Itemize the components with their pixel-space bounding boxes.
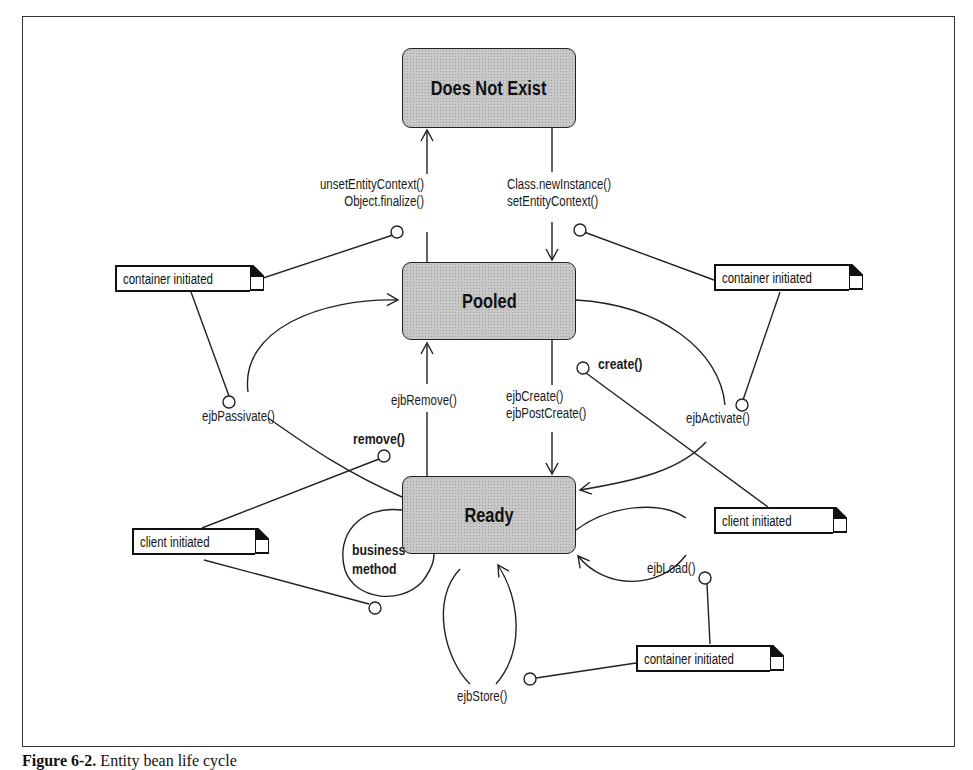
note-text: container initiated bbox=[722, 270, 812, 286]
note-corner-icon bbox=[770, 645, 784, 672]
ejbremove-label: ejbRemove() bbox=[391, 392, 457, 409]
create-trigger-label: create() bbox=[598, 355, 642, 372]
note-container-initiated-bottom: container initiated bbox=[636, 645, 770, 672]
ejbload-port bbox=[699, 572, 711, 584]
business-method-port bbox=[369, 602, 381, 614]
passivate-port bbox=[223, 396, 235, 408]
figure-caption: Figure 6-2. Entity bean life cycle bbox=[22, 752, 237, 770]
ejbstore-label: ejbStore() bbox=[457, 688, 507, 705]
label-line: ejbStore() bbox=[457, 688, 507, 705]
label-line: ejbRemove() bbox=[391, 392, 457, 409]
caption-number: Figure 6-2. bbox=[22, 752, 96, 769]
ejbcreate-label: ejbCreate() ejbPostCreate() bbox=[506, 388, 586, 422]
note-container-initiated-top-right: container initiated bbox=[714, 264, 849, 291]
note-corner-icon bbox=[255, 528, 269, 555]
state-label: Ready bbox=[464, 504, 513, 527]
new-instance-port bbox=[574, 224, 586, 236]
note-client-initiated-right: client initiated bbox=[714, 507, 833, 534]
state-pooled: Pooled bbox=[402, 262, 576, 340]
note-corner-icon bbox=[849, 264, 863, 291]
unset-context-label: unsetEntityContext() Object.finalize() bbox=[314, 176, 424, 210]
note-text: client initiated bbox=[140, 534, 210, 550]
note-text: container initiated bbox=[123, 271, 213, 287]
caption-text: Entity bean life cycle bbox=[100, 752, 236, 769]
note-corner-icon bbox=[833, 507, 847, 534]
note-text: container initiated bbox=[644, 651, 734, 667]
label-line: unsetEntityContext() bbox=[314, 176, 424, 193]
label-line: ejbActivate() bbox=[686, 410, 750, 427]
remove-port bbox=[378, 450, 390, 462]
state-does-not-exist: Does Not Exist bbox=[402, 48, 576, 128]
new-instance-label: Class.newInstance() setEntityContext() bbox=[507, 176, 611, 210]
label-line: ejbPassivate() bbox=[202, 408, 275, 425]
ejbstore-port bbox=[524, 673, 536, 685]
label-line: business bbox=[352, 540, 405, 559]
note-corner-icon bbox=[250, 265, 264, 292]
ejbload-label: ejbLoad() bbox=[647, 560, 696, 577]
label-line: ejbPostCreate() bbox=[506, 405, 586, 422]
state-label: Does Not Exist bbox=[431, 77, 547, 100]
label-line: ejbLoad() bbox=[647, 560, 696, 577]
business-method-label: business method bbox=[352, 540, 405, 578]
note-client-initiated-left: client initiated bbox=[132, 528, 255, 555]
create-port bbox=[577, 362, 589, 374]
ejbactivate-label: ejbActivate() bbox=[686, 410, 750, 427]
label-line: setEntityContext() bbox=[507, 193, 611, 210]
state-label: Pooled bbox=[462, 290, 517, 313]
label-line: Class.newInstance() bbox=[507, 176, 611, 193]
label-line: method bbox=[352, 559, 405, 578]
unset-context-port bbox=[391, 226, 403, 238]
note-text: client initiated bbox=[722, 513, 792, 529]
note-container-initiated-top-left: container initiated bbox=[115, 265, 250, 292]
state-ready: Ready bbox=[402, 476, 576, 554]
remove-trigger-label: remove() bbox=[353, 430, 405, 447]
label-line: Object.finalize() bbox=[314, 193, 424, 210]
ejbpassivate-label: ejbPassivate() bbox=[202, 408, 275, 425]
label-line: ejbCreate() bbox=[506, 388, 586, 405]
